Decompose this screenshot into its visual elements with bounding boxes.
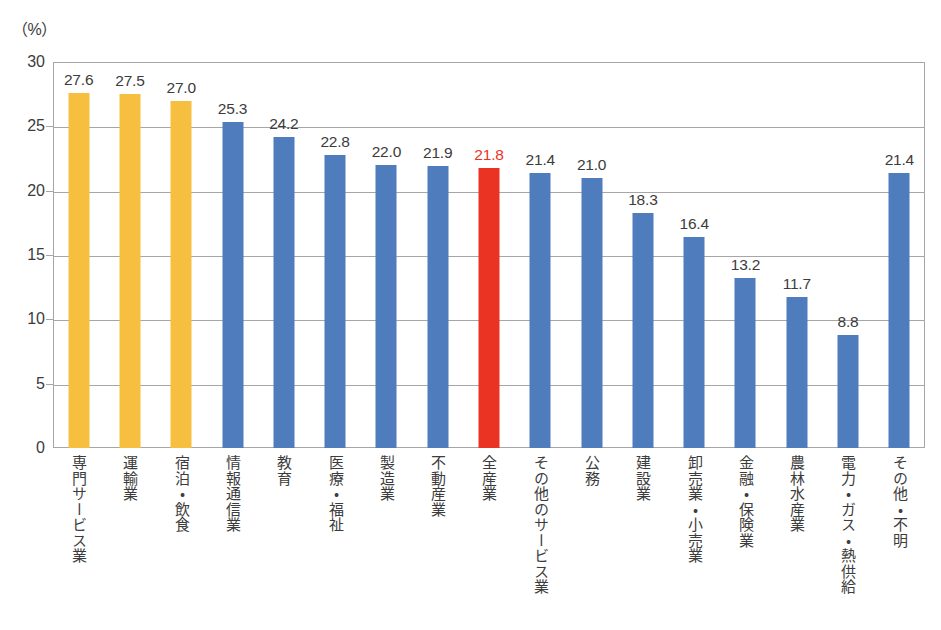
x-category-label: 宿泊・飲食: [173, 455, 189, 533]
y-tick-label: 15: [27, 246, 45, 264]
y-tick-label: 30: [27, 53, 45, 71]
x-category-label: 建設業: [635, 455, 651, 502]
x-category-label: 教育: [276, 455, 292, 486]
y-tick-label: 0: [36, 439, 45, 457]
gridline: [54, 320, 924, 321]
x-category-label: その他・不明: [891, 455, 907, 548]
x-category-label: その他のサービス業: [532, 455, 548, 595]
x-category-label: 医療・福祉: [327, 455, 343, 533]
x-category-label: 電力・ガス・熱供給: [840, 455, 856, 595]
x-category-label: 運輸業: [122, 455, 138, 502]
x-category-label: 製造業: [378, 455, 394, 502]
gridline: [54, 192, 924, 193]
x-category-label: 公務: [584, 455, 600, 486]
x-axis-category-labels: 専門サービス業運輸業宿泊・飲食情報通信業教育医療・福祉製造業不動産業全産業その他…: [53, 455, 925, 627]
x-category-label: 不動産業: [430, 455, 446, 517]
y-axis-unit-label: （%）: [12, 16, 57, 40]
bar-chart: （%） 051015202530 27.627.527.025.324.222.…: [0, 0, 941, 630]
y-tick-mark: [46, 191, 53, 192]
y-tick-label: 5: [36, 375, 45, 393]
x-category-label: 専門サービス業: [71, 455, 87, 564]
gridline: [54, 256, 924, 257]
x-category-label: 金融・保険業: [738, 455, 754, 548]
y-tick-mark: [46, 255, 53, 256]
y-tick-mark: [46, 126, 53, 127]
y-axis: 051015202530: [0, 62, 45, 448]
y-tick-label: 20: [27, 182, 45, 200]
x-category-label: 全産業: [481, 455, 497, 502]
plot-area: [53, 62, 925, 448]
y-tick-mark: [46, 319, 53, 320]
gridline: [54, 127, 924, 128]
x-category-label: 農林水産業: [789, 455, 805, 533]
x-category-label: 情報通信業: [225, 455, 241, 533]
y-tick-label: 25: [27, 117, 45, 135]
y-tick-label: 10: [27, 310, 45, 328]
y-tick-mark: [46, 384, 53, 385]
gridline: [54, 385, 924, 386]
x-category-label: 卸売業・小売業: [686, 455, 702, 564]
